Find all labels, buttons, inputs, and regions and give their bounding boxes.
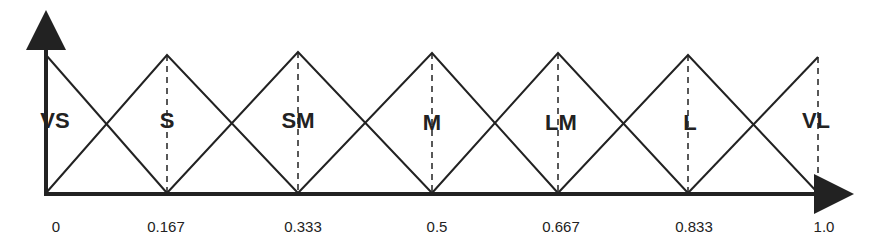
label-vs: VS	[40, 108, 69, 134]
tick-6: 1.0	[814, 218, 835, 235]
tick-3: 0.5	[427, 218, 448, 235]
tick-1: 0.167	[147, 218, 185, 235]
tick-4: 0.667	[542, 218, 580, 235]
label-vl: VL	[802, 108, 830, 134]
tick-2: 0.333	[284, 218, 322, 235]
label-s: S	[160, 108, 175, 134]
label-m: M	[423, 110, 441, 136]
peak-dashes	[167, 52, 818, 193]
label-sm: SM	[282, 108, 315, 134]
label-lm: LM	[545, 110, 577, 136]
tick-0: 0	[52, 218, 60, 235]
label-l: L	[683, 110, 696, 136]
tick-5: 0.833	[675, 218, 713, 235]
